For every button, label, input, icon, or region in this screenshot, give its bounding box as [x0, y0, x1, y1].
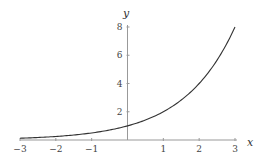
y-tick-label: 6	[117, 50, 123, 60]
x-axis-label: x	[247, 136, 254, 149]
x-tick-label: 1	[160, 144, 166, 154]
x-tick-label: −2	[49, 144, 62, 154]
chart: −3−2−11232468 x y	[0, 0, 267, 167]
y-axis-label: y	[122, 7, 130, 20]
y-tick-label: 4	[117, 79, 123, 89]
x-tick-label: −3	[13, 144, 27, 154]
axes	[20, 25, 237, 140]
y-tick-label: 2	[117, 107, 123, 117]
y-tick-label: 8	[117, 22, 123, 32]
x-tick-label: 2	[196, 144, 202, 154]
ticks: −3−2−11232468	[13, 22, 238, 154]
x-tick-label: 3	[232, 144, 238, 154]
x-tick-label: −1	[85, 144, 98, 154]
